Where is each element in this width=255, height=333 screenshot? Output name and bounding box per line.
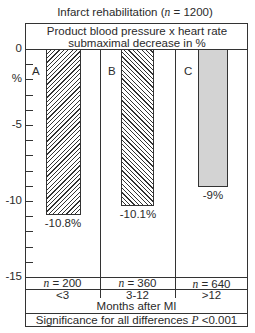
n-cell-a: n = 200: [25, 277, 100, 289]
y-tick-label-0: 0: [0, 42, 22, 54]
y-tick: [25, 171, 33, 172]
n-value: = 200: [49, 277, 81, 289]
y-axis-unit: %: [0, 72, 22, 84]
group-label-c: C: [184, 65, 192, 77]
value-label-c: -9%: [188, 189, 238, 201]
column-divider-2: [175, 49, 176, 298]
subtitle-line-2: submaximal decrease in %: [26, 37, 248, 49]
y-tick: [25, 262, 33, 263]
column-divider-1: [100, 49, 101, 298]
y-tick: [25, 155, 33, 156]
title-prefix: Infarct rehabilitation (: [57, 6, 164, 18]
y-tick: [25, 95, 33, 96]
subtitle-line-1: Product blood pressure x heart rate: [26, 25, 248, 37]
y-tick: [25, 247, 33, 248]
value-label-b: -10.1%: [113, 208, 163, 220]
chart-title: Infarct rehabilitation (n = 1200): [0, 6, 255, 18]
y-tick: [25, 186, 33, 187]
y-tick: [25, 79, 33, 80]
bar-a: [46, 49, 81, 215]
p-value: <0.001: [199, 314, 238, 326]
y-tick: [25, 216, 33, 217]
y-tick-label-5: -5: [0, 118, 22, 130]
y-tick: [25, 110, 33, 111]
y-tick-label-10: -10: [0, 194, 22, 206]
y-tick-label-15: -15: [0, 270, 22, 282]
chart-subtitle: Product blood pressure x heart rate subm…: [26, 25, 248, 49]
y-tick: [25, 140, 33, 141]
p-symbol: P: [192, 314, 199, 326]
y-tick: [25, 201, 33, 202]
bar-c: [198, 49, 228, 187]
bar-b: [121, 49, 154, 206]
y-tick: [25, 125, 33, 126]
y-tick: [25, 231, 33, 232]
significance-footnote: Significance for all differences P <0.00…: [25, 314, 248, 326]
footnote-text: Significance for all differences: [36, 314, 192, 326]
group-label-b: B: [108, 65, 116, 77]
x-axis-label: Months after MI: [25, 300, 248, 312]
n-cell-b: n = 360: [100, 277, 175, 289]
title-suffix: = 1200): [170, 6, 213, 18]
group-label-a: A: [32, 65, 40, 77]
n-value: = 360: [124, 277, 156, 289]
value-label-a: -10.8%: [38, 217, 88, 229]
